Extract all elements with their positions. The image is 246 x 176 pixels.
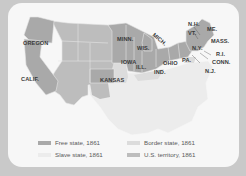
legend-item-us-territory: U.S. territory, 1861	[127, 151, 195, 158]
legend-swatch-free	[38, 141, 51, 145]
label-ohio: OHIO	[163, 61, 178, 67]
label-new-york: N.Y.	[192, 46, 203, 52]
label-wisconsin: WIS.	[137, 46, 150, 52]
label-kansas: KANSAS	[100, 78, 124, 84]
legend-swatch-territory	[127, 153, 140, 157]
label-vermont: VT.	[188, 31, 196, 37]
label-new-jersey: N.J.	[205, 69, 216, 75]
legend-item-border-state: Border state, 1861	[127, 139, 195, 146]
label-new-hampshire: N.H.	[188, 22, 200, 28]
map-card: OREGON CALIF. KANSAS MINN. WIS. MICH. IO…	[8, 3, 239, 167]
legend-swatch-border	[127, 141, 140, 145]
label-rhode-island: R.I.	[216, 52, 225, 58]
label-illinois: ILL.	[136, 65, 146, 71]
california-state	[24, 39, 58, 95]
legend-label: Border state, 1861	[144, 139, 195, 146]
legend-label: U.S. territory, 1861	[144, 151, 195, 158]
label-maine: ME.	[207, 27, 217, 33]
legend-label: Free state, 1861	[55, 139, 100, 146]
label-oregon: OREGON	[23, 41, 48, 47]
label-california: CALIF.	[21, 77, 39, 83]
label-connecticut: CONN.	[212, 60, 231, 66]
label-massachusetts: MASS.	[211, 39, 229, 45]
legend-item-slave-state: Slave state, 1861	[38, 151, 103, 158]
label-iowa: IOWA	[121, 60, 136, 66]
label-indiana: IND.	[154, 70, 166, 76]
legend-item-free-state: Free state, 1861	[38, 139, 100, 146]
label-pennsylvania: PA.	[182, 58, 191, 64]
legend-swatch-slave	[38, 153, 51, 157]
label-minnesota: MINN.	[117, 37, 133, 43]
legend-label: Slave state, 1861	[55, 151, 103, 158]
